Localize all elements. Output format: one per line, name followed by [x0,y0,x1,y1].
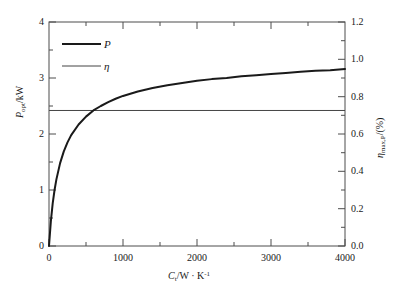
y-axis-left-title: Popt/kW [14,86,27,118]
y-left-symbol: P [14,112,25,118]
x-axis-title: Ct/W · K-1 [168,270,210,283]
xtick-2: 2000 [177,252,217,263]
ytick-right-5: 1.0 [351,53,364,64]
y-left-unit: /kW [14,86,25,103]
ytick-right-3: 0.6 [351,128,364,139]
x-symbol: C [168,270,175,281]
y-right-symbol: η [374,153,385,158]
ytick-right-6: 1.2 [351,16,364,27]
x-axis-top-ticks [86,22,308,29]
ytick-left-1: 1 [24,184,44,195]
x-unit: /W · K [177,270,205,281]
y-axis-right-major-ticks [338,22,345,246]
axes-frame [49,22,345,246]
ytick-left-0: 0 [24,240,44,251]
y-right-subscript: max,P [379,135,387,153]
ytick-right-0: 0.0 [351,240,364,251]
series-p-curve [49,69,345,246]
xtick-1: 1000 [103,252,143,263]
ytick-left-3: 3 [24,72,44,83]
figure-container: P η 0 1 2 3 4 0.0 0.2 0.4 0.6 0.8 1.0 1.… [0,0,397,296]
legend-label-p: P [104,38,111,50]
ytick-right-2: 0.4 [351,165,364,176]
ytick-left-2: 2 [24,128,44,139]
y-axis-right-title: ηmax,P/(%) [374,118,387,158]
xtick-3: 3000 [251,252,291,263]
y-left-subscript: opt [19,103,27,112]
ytick-left-4: 4 [24,16,44,27]
ytick-right-1: 0.2 [351,203,364,214]
legend-swatches [62,44,101,66]
x-unit-exponent: -1 [204,270,210,278]
ytick-right-4: 0.8 [351,91,364,102]
x-axis-major-ticks [49,239,345,246]
y-right-unit: /(%) [374,118,385,136]
xtick-4: 4000 [325,252,365,263]
xtick-0: 0 [29,252,69,263]
legend-label-eta: η [104,60,109,72]
